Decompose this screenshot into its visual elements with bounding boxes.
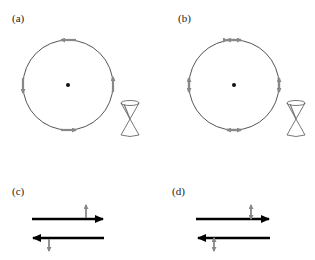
- diagram-canvas: [0, 0, 315, 260]
- center-dot-icon: [66, 83, 70, 87]
- panel-a-circle-diagram: [23, 40, 139, 137]
- panel-d-parallel-arrows: [196, 205, 270, 251]
- center-dot-icon: [232, 83, 236, 87]
- light-cone-icon: [287, 101, 305, 137]
- panel-b-circle-diagram: [189, 40, 305, 137]
- light-cone-icon: [121, 101, 139, 137]
- panel-c-parallel-arrows: [32, 205, 104, 251]
